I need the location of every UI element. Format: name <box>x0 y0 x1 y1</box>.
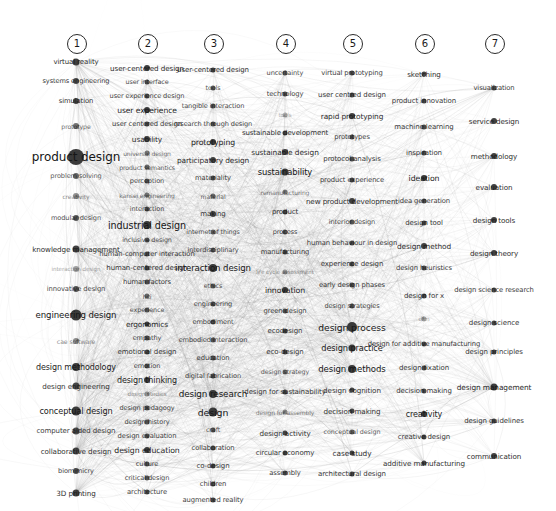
network-graph-canvas: virtual realitysystems engineeringsimula… <box>0 0 556 511</box>
column-header-7: 7 <box>485 34 505 54</box>
column-header-4: 4 <box>276 34 296 54</box>
column-header-3: 3 <box>204 34 224 54</box>
column-header-1: 1 <box>67 34 87 54</box>
column-header-5: 5 <box>343 34 363 54</box>
column-header-layer: 1234567 <box>0 0 556 511</box>
column-header-6: 6 <box>415 34 435 54</box>
column-header-2: 2 <box>138 34 158 54</box>
